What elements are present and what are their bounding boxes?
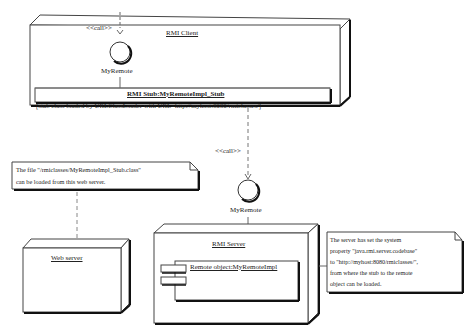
remote-object-title: Remote object:MyRemoteImpl (190, 264, 277, 271)
web-server-label: Web server (51, 255, 83, 262)
rmi-server-label: RMI Server (212, 241, 245, 248)
server-note-line-5: object can be loaded. (330, 281, 381, 287)
server-note-line-4: from where the stub to the remote (330, 270, 413, 276)
server-note-line-3: to "http://myhost:8080/rmiclasses/", (330, 259, 418, 265)
server-call-label: <<call>> (215, 148, 241, 155)
web-server-node (23, 239, 130, 313)
server-note-line-1: The server has set the system (330, 237, 401, 243)
web-note-line-1: The file "/rmiclasses/MyRemoteImpl_Stub.… (16, 167, 141, 173)
client-interface-label: MyRemote (101, 68, 133, 75)
server-interface-label: MyRemote (230, 207, 262, 214)
server-note-line-2: property "java.rmi.server.codebase" (330, 248, 417, 254)
web-note-line-2: can be loaded from this web server. (16, 179, 105, 185)
stub-title: RMI Stub:MyRemoteImpl_Stub (127, 91, 224, 98)
stub-note: [stub class loaded by URLClassLoader wit… (36, 103, 261, 110)
client-call-label: <<call>> (86, 25, 112, 32)
rmi-client-label: RMI Client (166, 30, 198, 37)
